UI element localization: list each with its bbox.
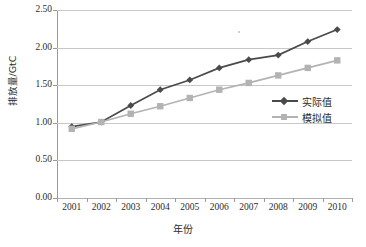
data-point-square	[305, 65, 311, 71]
x-tick-label: 2010	[317, 203, 357, 213]
x-tick	[205, 198, 206, 202]
stray-speck	[238, 31, 240, 33]
data-point-diamond	[334, 26, 341, 33]
data-point-square	[246, 80, 252, 86]
data-point-square	[216, 87, 222, 93]
data-point-square	[275, 72, 281, 78]
x-tick	[57, 198, 58, 202]
data-point-square	[69, 126, 75, 132]
x-tick	[264, 198, 265, 202]
data-point-square	[334, 57, 340, 63]
chart-figure: 0.000.501.001.502.002.50 200120022003200…	[0, 0, 366, 247]
data-point-diamond	[157, 86, 164, 93]
data-point-diamond	[304, 38, 311, 45]
data-point-diamond	[245, 56, 252, 63]
y-tick-label: 0.50	[12, 155, 52, 165]
legend-item-actual: 实际值	[272, 93, 362, 109]
legend-item-simulated: 模拟值	[272, 109, 362, 125]
diamond-marker-icon	[280, 97, 288, 105]
data-point-square	[157, 103, 163, 109]
x-tick	[87, 198, 88, 202]
legend-label-actual: 实际值	[302, 94, 332, 109]
y-axis-title: 排放量/GtC	[5, 31, 19, 131]
x-axis-title: 年份	[0, 221, 366, 236]
x-tick	[146, 198, 147, 202]
legend: 实际值 模拟值	[272, 93, 362, 125]
legend-swatch-simulated	[272, 111, 298, 123]
y-tick-label: 2.50	[12, 5, 52, 15]
data-point-diamond	[216, 65, 223, 72]
x-tick	[175, 198, 176, 202]
x-tick	[352, 198, 353, 202]
data-point-square	[98, 119, 104, 125]
square-marker-icon	[281, 114, 287, 120]
data-point-square	[128, 111, 134, 117]
x-tick	[116, 198, 117, 202]
x-tick	[293, 198, 294, 202]
data-point-diamond	[275, 52, 282, 59]
legend-swatch-actual	[272, 95, 298, 107]
data-point-square	[187, 95, 193, 101]
x-tick	[234, 198, 235, 202]
data-point-diamond	[127, 102, 134, 109]
y-tick-label: 0.00	[12, 193, 52, 203]
x-tick	[323, 198, 324, 202]
data-point-diamond	[186, 77, 193, 84]
legend-label-simulated: 模拟值	[302, 110, 332, 125]
